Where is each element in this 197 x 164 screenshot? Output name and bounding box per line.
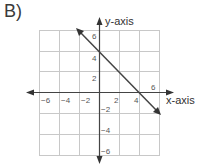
y-axis-down-arrow-icon: [97, 156, 103, 164]
y-tick-label: −4: [101, 126, 111, 135]
y-tick-label: 2: [92, 74, 97, 83]
y-axis-up-arrow-icon: [97, 17, 103, 25]
x-tick-label: 6: [151, 83, 156, 92]
x-tick-label: −2: [81, 96, 91, 105]
x-axis-label: x-axis: [166, 94, 195, 106]
y-tick-label: −6: [101, 147, 111, 156]
y-tick-label: −2: [101, 105, 111, 114]
x-tick-label: −4: [61, 96, 71, 105]
x-tick-label: 4: [134, 96, 139, 105]
x-tick-label: −6: [41, 96, 51, 105]
x-tick-label: 2: [114, 96, 119, 105]
y-axis-label: y-axis: [105, 15, 134, 27]
coordinate-plane: y-axis x-axis −6 −4 −2 2 4 6 6 4 2 −2 −4…: [0, 0, 197, 164]
y-tick-label: 6: [92, 32, 97, 41]
y-tick-label: 4: [92, 54, 97, 63]
x-axis-left-arrow-icon: [26, 90, 34, 96]
y-axis: [97, 17, 103, 164]
